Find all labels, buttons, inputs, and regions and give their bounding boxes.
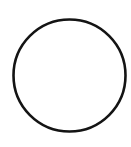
shape-svg <box>0 0 131 147</box>
canvas-background <box>0 0 131 147</box>
drawing-canvas <box>0 0 131 147</box>
